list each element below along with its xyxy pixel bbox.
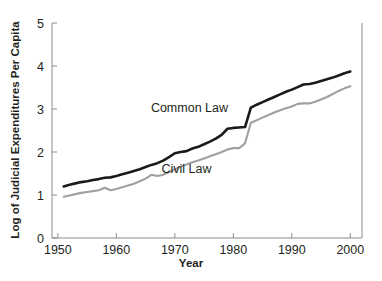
y-tick-label: 1 — [37, 189, 44, 203]
x-tick-label: 1990 — [278, 243, 306, 257]
x-tick-label: 2000 — [336, 243, 364, 257]
line-chart: 012345 195019601970198019902000 Year Log… — [0, 0, 382, 281]
chart-background — [0, 0, 382, 281]
x-tick-label: 1950 — [44, 243, 72, 257]
y-tick-label: 4 — [37, 60, 44, 74]
x-tick-label: 1980 — [219, 243, 247, 257]
series-label-common-law: Common Law — [151, 101, 229, 115]
x-tick-label: 1960 — [102, 243, 130, 257]
y-tick-label: 3 — [37, 103, 44, 117]
x-axis-title: Year — [179, 257, 204, 269]
x-tick-label: 1970 — [161, 243, 189, 257]
series-label-civil-law: Civil Law — [162, 162, 213, 176]
y-tick-label: 5 — [37, 17, 44, 31]
y-axis-title: Log of Judicial Expenditures Per Capita — [9, 21, 21, 239]
y-tick-label: 2 — [37, 146, 44, 160]
chart-container: 012345 195019601970198019902000 Year Log… — [0, 0, 382, 281]
